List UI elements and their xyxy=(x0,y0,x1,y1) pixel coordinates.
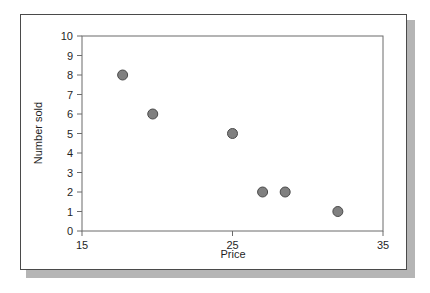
figure-frame xyxy=(20,14,407,270)
figure-container: 012345678910152535 Price Number sold xyxy=(0,0,430,293)
